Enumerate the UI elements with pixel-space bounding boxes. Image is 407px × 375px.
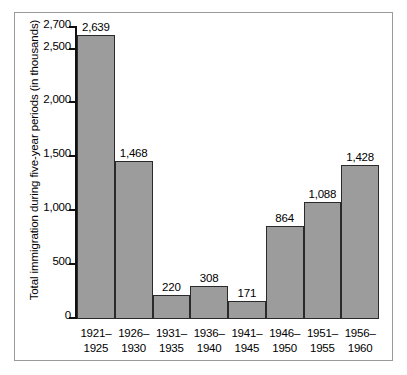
bar-value-label: 864 xyxy=(274,212,295,224)
x-label-line: 1951– xyxy=(304,326,342,341)
bar-slot: 308 xyxy=(190,26,228,319)
bar[interactable] xyxy=(77,35,115,319)
bar[interactable] xyxy=(190,286,228,319)
x-label-line: 1921– xyxy=(77,326,115,341)
x-label-line: 1930 xyxy=(115,341,153,356)
x-label-line: 1950 xyxy=(266,341,304,356)
bar[interactable] xyxy=(266,226,304,319)
bar-slot: 2,639 xyxy=(77,26,115,319)
y-axis-title: Total immigration during five-year perio… xyxy=(28,5,40,315)
x-axis-category-label: 1946–1950 xyxy=(266,326,304,356)
y-tick-label: 1,000 xyxy=(43,201,71,213)
x-label-line: 1931– xyxy=(153,326,191,341)
bar[interactable] xyxy=(341,165,379,319)
x-label-line: 1925 xyxy=(77,341,115,356)
x-label-line: 1935 xyxy=(153,341,191,356)
x-axis-category-label: 1931–1935 xyxy=(153,326,191,356)
x-label-line: 1940 xyxy=(190,341,228,356)
x-axis-category-label: 1951–1955 xyxy=(304,326,342,356)
y-tick-label: 500 xyxy=(52,255,71,267)
x-axis-labels: 1921–19251926–19301931–19351936–19401941… xyxy=(77,326,379,366)
y-tick-label: 0 xyxy=(65,309,71,321)
y-tick-label: 1,500 xyxy=(43,147,71,159)
bar-slot: 1,088 xyxy=(304,26,342,319)
bar-slot: 1,428 xyxy=(341,26,379,319)
plot-area: 05001,0001,5002,0002,5002,700 2,6391,468… xyxy=(75,26,379,319)
y-tick-label: 2,500 xyxy=(43,40,71,52)
bar[interactable] xyxy=(304,202,342,319)
x-axis-category-label: 1941–1945 xyxy=(228,326,266,356)
x-label-line: 1946– xyxy=(266,326,304,341)
x-axis-category-label: 1936–1940 xyxy=(190,326,228,356)
y-tick-label: 2,000 xyxy=(43,93,71,105)
bar-slot: 864 xyxy=(266,26,304,319)
bar-value-label: 171 xyxy=(237,287,258,299)
x-label-line: 1936– xyxy=(190,326,228,341)
bar-value-label: 220 xyxy=(161,281,182,293)
bar-value-label: 1,468 xyxy=(119,147,149,159)
x-label-line: 1945 xyxy=(228,341,266,356)
bar-slot: 1,468 xyxy=(115,26,153,319)
x-label-line: 1926– xyxy=(115,326,153,341)
x-axis-category-label: 1921–1925 xyxy=(77,326,115,356)
bar-value-label: 308 xyxy=(199,272,220,284)
x-label-line: 1956– xyxy=(341,326,379,341)
y-tick-label: 2,700 xyxy=(43,18,71,30)
bar-slot: 171 xyxy=(228,26,266,319)
x-label-line: 1960 xyxy=(341,341,379,356)
x-axis-category-label: 1956–1960 xyxy=(341,326,379,356)
x-axis-category-label: 1926–1930 xyxy=(115,326,153,356)
bar[interactable] xyxy=(115,161,153,319)
bar-series: 2,6391,4682203081718641,0881,428 xyxy=(77,26,379,319)
x-label-line: 1955 xyxy=(304,341,342,356)
bar[interactable] xyxy=(228,301,266,319)
bar-value-label: 2,639 xyxy=(81,21,111,33)
bar-slot: 220 xyxy=(153,26,191,319)
x-label-line: 1941– xyxy=(228,326,266,341)
chart-figure: Total immigration during five-year perio… xyxy=(14,12,393,361)
bar-value-label: 1,428 xyxy=(345,151,375,163)
bar[interactable] xyxy=(153,295,191,319)
bar-value-label: 1,088 xyxy=(307,188,337,200)
